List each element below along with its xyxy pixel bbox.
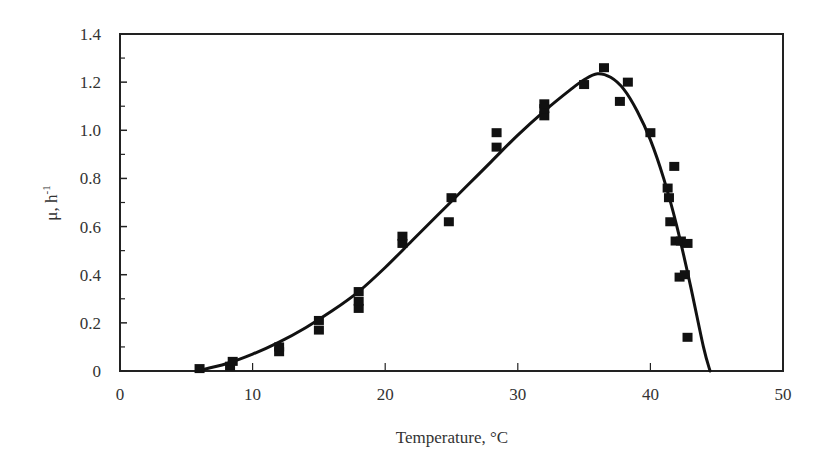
x-tick-label: 20 xyxy=(377,385,394,404)
data-point-square xyxy=(645,128,655,137)
y-axis-title: μ, h-1 xyxy=(40,185,61,220)
data-points xyxy=(195,63,693,373)
y-axis-title-superscript: -1 xyxy=(40,185,52,194)
data-point-square xyxy=(354,287,364,296)
data-point-square xyxy=(683,239,693,248)
y-tick-label: 1.2 xyxy=(80,73,101,92)
x-tick-label: 40 xyxy=(642,385,659,404)
data-point-square xyxy=(274,342,284,351)
data-point-square xyxy=(599,63,609,72)
data-point-square xyxy=(492,128,502,137)
y-tick-label: 0.4 xyxy=(80,266,102,285)
data-point-square xyxy=(492,143,502,152)
data-point-square xyxy=(314,316,324,325)
data-point-square xyxy=(579,80,589,89)
y-tick-label: 0.2 xyxy=(80,314,101,333)
y-tick-label: 0 xyxy=(93,362,102,381)
x-axis-ticks: 01020304050 xyxy=(116,363,792,404)
data-point-square xyxy=(664,193,674,202)
y-axis-title-main: μ, h xyxy=(42,194,61,221)
data-point-square xyxy=(669,162,679,171)
data-point-square xyxy=(663,184,673,193)
data-point-square xyxy=(354,297,364,306)
growth-rate-chart: 00.20.40.60.81.01.21.4 01020304050 Tempe… xyxy=(0,0,837,471)
y-tick-label: 1.0 xyxy=(80,121,101,140)
x-axis-title: Temperature, °C xyxy=(396,428,508,447)
data-point-square xyxy=(314,326,324,335)
x-tick-label: 30 xyxy=(509,385,526,404)
y-tick-label: 0.8 xyxy=(80,169,101,188)
data-point-square xyxy=(680,270,690,279)
y-tick-label: 0.6 xyxy=(80,218,101,237)
data-point-square xyxy=(195,364,205,373)
data-point-square xyxy=(447,193,457,202)
data-point-square xyxy=(444,217,454,226)
data-point-square xyxy=(615,97,625,106)
x-tick-label: 10 xyxy=(244,385,261,404)
y-tick-label: 1.4 xyxy=(80,25,102,44)
data-point-square xyxy=(665,217,675,226)
data-point-square xyxy=(683,333,693,342)
data-point-square xyxy=(623,78,633,87)
x-tick-label: 0 xyxy=(116,385,125,404)
data-point-square xyxy=(228,357,238,366)
data-point-square xyxy=(539,99,549,108)
data-point-square xyxy=(397,232,407,241)
x-tick-label: 50 xyxy=(775,385,792,404)
